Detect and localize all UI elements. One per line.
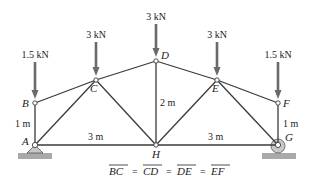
node-label-F: F <box>282 97 290 109</box>
member-BC <box>35 80 96 103</box>
equals-sign: = <box>200 166 206 177</box>
node-label-E: E <box>211 82 219 94</box>
dim-dh: 2 m <box>160 97 176 108</box>
ground-a <box>18 153 52 159</box>
node-label-G: G <box>285 131 293 143</box>
joint-A <box>32 142 37 147</box>
dim-hg: 3 m <box>208 131 224 142</box>
equals-sign: = <box>132 166 138 177</box>
load-label-F: 1.5 kN <box>264 49 291 60</box>
joint-D <box>154 59 158 63</box>
equal-length-caption: BC=CD=DE=EF <box>109 165 230 177</box>
node-label-A: A <box>21 135 29 147</box>
node-label-D: D <box>160 49 169 61</box>
arrow-down-icon <box>32 90 39 99</box>
load-label-B: 1.5 kN <box>21 49 48 60</box>
arrow-down-icon <box>93 67 100 76</box>
member-CD <box>96 61 156 80</box>
ground-g <box>262 153 296 159</box>
member-DE <box>156 61 217 80</box>
load-label-E: 3 kN <box>207 29 227 40</box>
segment-EF: EF <box>210 165 225 177</box>
joint-H <box>154 143 158 147</box>
member-CH <box>96 80 156 145</box>
truss-members <box>35 61 278 145</box>
load-label-C: 3 kN <box>86 29 106 40</box>
segment-BC: BC <box>109 165 124 177</box>
member-EG <box>217 80 278 145</box>
arrow-down-icon <box>275 90 282 99</box>
member-AC <box>35 80 96 145</box>
arrow-down-icon <box>153 48 160 57</box>
truss-diagram: 1.5 kN3 kN3 kN3 kN1.5 kN ABCDEFGH 1 m 1 … <box>0 0 312 186</box>
load-label-D: 3 kN <box>146 11 166 22</box>
node-label-C: C <box>90 82 98 94</box>
equals-sign: = <box>166 166 172 177</box>
dim-ab: 1 m <box>15 118 31 129</box>
member-EF <box>217 80 278 103</box>
dim-fg: 1 m <box>283 118 299 129</box>
node-label-H: H <box>151 148 161 160</box>
segment-DE: DE <box>176 165 192 177</box>
joint-B <box>33 101 37 105</box>
joint-G <box>275 142 280 147</box>
dim-ah: 3 m <box>88 131 104 142</box>
joint-F <box>276 101 280 105</box>
arrow-down-icon <box>214 67 221 76</box>
node-label-B: B <box>22 97 29 109</box>
segment-CD: CD <box>143 165 158 177</box>
